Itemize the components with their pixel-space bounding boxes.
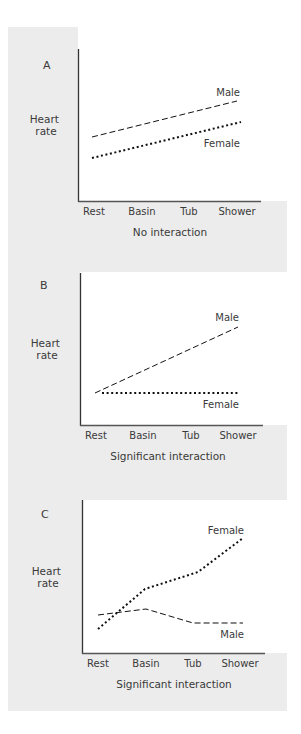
series-label-male-b: Male [215,312,239,323]
x-tick-basin-b: Basin [129,430,156,441]
caption-b: Significant interaction [110,450,226,462]
series-label-female-a: Female [204,138,240,149]
series-label-male-c: Male [220,629,244,640]
caption-c: Significant interaction [116,678,232,690]
x-tick-shower-b: Shower [219,430,257,441]
plot-area-b [80,272,301,425]
x-tick-basin-a: Basin [128,206,155,217]
x-tick-basin-c: Basin [132,658,159,669]
x-tick-rest-a: Rest [83,206,105,217]
x-tick-tub-a: Tub [179,206,197,217]
series-label-male-a: Male [216,87,240,98]
x-tick-shower-a: Shower [218,206,256,217]
figure: A Heart rate Male Female Rest Basin Tub … [0,0,301,734]
panel-label-b: B [40,279,48,292]
x-tick-rest-b: Rest [85,430,107,441]
series-label-female-c: Female [208,525,244,536]
panel-label-a: A [43,59,51,72]
x-tick-shower-c: Shower [221,658,259,669]
plot-area-c [82,500,301,653]
x-tick-tub-c: Tub [183,658,201,669]
series-label-female-b: Female [203,399,239,410]
x-tick-tub-b: Tub [181,430,199,441]
caption-a: No interaction [133,226,207,238]
plot-area-a [78,27,301,201]
panel-label-c: C [41,508,49,521]
x-tick-rest-c: Rest [87,658,109,669]
